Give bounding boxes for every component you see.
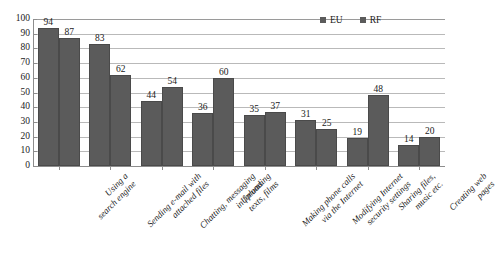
y-axis-tick-label: 100 xyxy=(4,14,30,24)
legend-swatch-icon xyxy=(320,17,326,23)
y-axis-tick-mark xyxy=(33,78,37,79)
x-axis-category-labels: Using asearch engineSending e-mail witha… xyxy=(33,167,445,258)
y-axis-tick-mark xyxy=(33,122,37,123)
y-axis-tick-label: 50 xyxy=(4,88,30,98)
bar-eu xyxy=(192,113,213,166)
x-axis-tick-mark xyxy=(265,167,266,170)
bar-group: 1948 xyxy=(347,19,389,166)
y-axis-tick-mark xyxy=(33,166,37,167)
bar-value-label: 60 xyxy=(213,67,234,77)
bar-rf xyxy=(213,78,234,166)
x-axis-category-label: Using asearch engine xyxy=(87,171,138,222)
legend-item-eu[interactable]: EU xyxy=(320,15,343,25)
bar-group: 4454 xyxy=(141,19,183,166)
x-axis-tick-mark xyxy=(316,167,317,170)
y-axis-tick-label: 40 xyxy=(4,102,30,112)
bar-group: 8362 xyxy=(89,19,131,166)
x-axis-tick-mark xyxy=(419,167,420,170)
x-axis-tick-mark xyxy=(213,167,214,170)
y-axis-tick-mark xyxy=(33,34,37,35)
bar-value-label: 35 xyxy=(244,104,265,114)
y-axis-tick-label: 20 xyxy=(4,132,30,142)
y-axis-tick-mark xyxy=(33,93,37,94)
y-axis-tick-label: 70 xyxy=(4,58,30,68)
bar-rf xyxy=(265,112,286,166)
bar-value-label: 87 xyxy=(59,27,80,37)
x-axis-tick-mark xyxy=(368,167,369,170)
plot-area: 94878362445436603537312519481420 xyxy=(33,19,445,166)
legend-label: EU xyxy=(330,15,343,25)
bar-value-label: 62 xyxy=(110,64,131,74)
bar-rf xyxy=(162,87,183,166)
x-axis-tick-mark xyxy=(110,167,111,170)
bar-eu xyxy=(89,44,110,166)
bar-rf xyxy=(419,137,440,166)
bar-group: 9487 xyxy=(38,19,80,166)
bar-value-label: 37 xyxy=(265,101,286,111)
bar-eu xyxy=(295,120,316,166)
legend-label: RF xyxy=(370,15,382,25)
x-axis-category-label: Creating webpages xyxy=(447,171,497,221)
y-axis-tick-mark xyxy=(33,151,37,152)
y-axis-tick-mark xyxy=(33,48,37,49)
bar-rf xyxy=(110,75,131,166)
bar-rf xyxy=(59,38,80,166)
bar-group: 1420 xyxy=(398,19,440,166)
y-axis-tick-mark xyxy=(33,107,37,108)
y-axis-tick-label: 0 xyxy=(4,161,30,171)
y-axis-tick-label: 30 xyxy=(4,117,30,127)
bar-group: 3660 xyxy=(192,19,234,166)
bar-value-label: 25 xyxy=(316,118,337,128)
bar-rf xyxy=(368,95,389,166)
bar-eu xyxy=(244,115,265,166)
legend-item-rf[interactable]: RF xyxy=(360,15,382,25)
y-axis-tick-mark xyxy=(33,137,37,138)
bar-value-label: 44 xyxy=(141,90,162,100)
bar-value-label: 36 xyxy=(192,102,213,112)
bar-value-label: 19 xyxy=(347,127,368,137)
bar-rf xyxy=(316,129,337,166)
bar-value-label: 48 xyxy=(368,84,389,94)
y-axis-tick-label: 80 xyxy=(4,44,30,54)
x-axis-tick-mark xyxy=(162,167,163,170)
bar-eu xyxy=(141,101,162,166)
bar-eu xyxy=(398,145,419,166)
y-axis-tick-mark xyxy=(33,63,37,64)
x-axis-category-label: Making phone callsvia the Internet xyxy=(300,171,366,237)
legend-swatch-icon xyxy=(360,17,366,23)
bar-value-label: 31 xyxy=(295,109,316,119)
bar-group: 3537 xyxy=(244,19,286,166)
bar-value-label: 94 xyxy=(38,17,59,27)
x-axis-tick-mark xyxy=(59,167,60,170)
bar-value-label: 20 xyxy=(419,126,440,136)
bar-value-label: 83 xyxy=(89,33,110,43)
y-axis-tick-label: 90 xyxy=(4,29,30,39)
bar-value-label: 14 xyxy=(398,134,419,144)
bar-eu xyxy=(38,28,59,166)
bar-group: 3125 xyxy=(295,19,337,166)
y-axis-tick-label: 60 xyxy=(4,73,30,83)
chart-legend: EURF xyxy=(320,15,381,25)
y-axis-tick-label: 10 xyxy=(4,147,30,157)
bar-value-label: 54 xyxy=(162,76,183,86)
bar-eu xyxy=(347,138,368,166)
y-axis-tick-labels: 1009080706050403020100 xyxy=(0,19,30,166)
y-axis-tick-mark xyxy=(33,19,37,20)
